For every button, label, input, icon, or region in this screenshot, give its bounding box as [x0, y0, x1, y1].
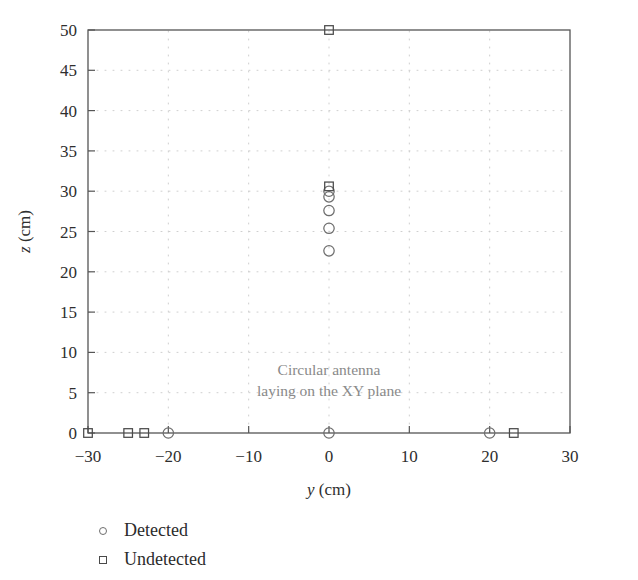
annotation-line: Circular antenna — [278, 361, 381, 378]
x-tick-label: 0 — [325, 447, 334, 466]
y-tick-label: 50 — [60, 21, 77, 40]
x-tick-label: 10 — [401, 447, 418, 466]
square-marker-icon — [92, 550, 114, 570]
chart-annotation: Circular antennalaying on the XY plane — [257, 361, 401, 399]
y-tick-label: 15 — [60, 303, 77, 322]
x-tick-label: 20 — [481, 447, 498, 466]
y-tick-label: 35 — [60, 142, 77, 161]
x-tick-label: −30 — [75, 447, 102, 466]
scatter-chart-figure: Circular antennalaying on the XY plane05… — [0, 0, 638, 580]
y-tick-label: 20 — [60, 263, 77, 282]
y-tick-label: 45 — [60, 61, 77, 80]
x-tick-label: −20 — [155, 447, 182, 466]
y-tick-label: 0 — [69, 424, 78, 443]
legend-item-detected[interactable]: Detected — [92, 516, 392, 545]
legend-label: Detected — [124, 520, 188, 541]
annotation-line: laying on the XY plane — [257, 382, 401, 399]
x-tick-label: 30 — [562, 447, 579, 466]
marker-glyph — [99, 527, 107, 535]
x-tick-label: −10 — [235, 447, 262, 466]
tick-labels: 05101520253035404550−30−20−100102030 — [60, 21, 579, 466]
y-tick-label: 25 — [60, 223, 77, 242]
legend-label: Undetected — [124, 549, 206, 570]
plot-area-svg: Circular antennalaying on the XY plane05… — [0, 0, 638, 510]
legend-item-undetected[interactable]: Undetected — [92, 545, 392, 574]
y-tick-label: 5 — [69, 384, 78, 403]
y-tick-label: 10 — [60, 343, 77, 362]
chart-legend: DetectedUndetected — [92, 516, 392, 574]
marker-glyph — [99, 556, 107, 564]
y-tick-label: 40 — [60, 102, 77, 121]
y-tick-label: 30 — [60, 182, 77, 201]
circle-marker-icon — [92, 521, 114, 541]
x-axis-title: y (cm) — [305, 480, 351, 499]
y-axis-title: z (cm) — [15, 210, 34, 254]
